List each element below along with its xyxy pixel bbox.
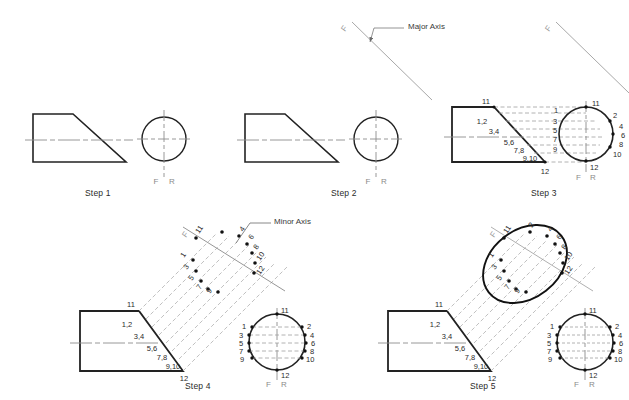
step5-label-7-8: 7,8 [465, 353, 475, 362]
step4-circle-label-10: 10 [306, 355, 314, 364]
step3-circle-label-6: 6 [621, 131, 625, 140]
major-axis-leader [370, 28, 404, 42]
step-4-caption: Step 4 [185, 381, 211, 391]
step4-label-3-4: 3,4 [134, 332, 144, 341]
step4-pt-label-4: 4 [237, 225, 247, 234]
step4-label-5-6: 5,6 [147, 344, 157, 353]
drawing-sheet: F R F R 11 1,2 3,4 5,6 7,8 9,10 12 11 1 … [0, 0, 629, 400]
major-axis-group [352, 22, 629, 100]
step5-circle-label-11: 11 [589, 306, 597, 315]
step4-group [70, 223, 308, 380]
step3-circle-label-4: 4 [619, 122, 623, 131]
step5-ellipse-points [499, 230, 565, 294]
step2-rear-marker: R [381, 177, 387, 186]
step3-label-3-4: 3,4 [489, 127, 499, 136]
step4-plotted-points [191, 230, 257, 294]
step5-circle-label-2: 2 [615, 322, 619, 331]
step1-front-marker: F [154, 177, 159, 186]
step5-label-11: 11 [435, 300, 443, 309]
step4-circle-label-9: 9 [240, 355, 244, 364]
step5-ellipse-label-4: 4 [545, 225, 555, 234]
step4-receding-lines [139, 233, 287, 371]
step4-pt-label-8: 8 [251, 243, 261, 252]
step4-pt-label-1: 1 [178, 251, 188, 260]
step3-circle-label-1: 1 [554, 106, 558, 115]
step5-label-1-2: 1,2 [430, 320, 440, 329]
step5-circle-label-1: 1 [550, 322, 554, 331]
step5-ellipse-label-11: 11 [501, 224, 513, 236]
step4-major-axis [183, 227, 285, 291]
step3-rear-marker: R [590, 173, 596, 182]
step-3-caption: Step 3 [531, 188, 557, 198]
major-axis-fold-marker-left: F [339, 24, 349, 33]
step5-front-marker: F [574, 380, 579, 389]
technical-drawing-svg: F R F R 11 1,2 3,4 5,6 7,8 9,10 12 11 1 … [0, 0, 629, 400]
step4-pt-label-7: 7 [194, 283, 204, 292]
step3-label-11: 11 [482, 97, 490, 106]
step3-label-1-2: 1,2 [477, 117, 487, 126]
step1-rear-marker: R [169, 177, 175, 186]
step-1-caption: Step 1 [85, 188, 111, 198]
step3-circle-label-5: 5 [553, 126, 557, 135]
step4-circle-label-2: 2 [307, 322, 311, 331]
step3-circle-label-8: 8 [619, 140, 623, 149]
step4-label-9-10: 9,10 [166, 362, 181, 371]
step4-circle-chords [249, 327, 306, 358]
step4-label-1-2: 1,2 [122, 320, 132, 329]
step5-circle-points [555, 312, 615, 371]
step5-circle-chords [557, 327, 614, 358]
step-5-caption: Step 5 [470, 381, 496, 391]
step4-label-7-8: 7,8 [157, 353, 167, 362]
step1-group [25, 110, 191, 177]
step3-label-12: 12 [541, 167, 549, 176]
step4-circle-points [247, 312, 307, 371]
minor-axis-label: Minor Axis [274, 217, 311, 226]
major-axis-line-left [352, 22, 432, 100]
step5-ellipse-label-2: 2 [526, 221, 536, 230]
step3-circle-label-9: 9 [553, 145, 557, 154]
step5-fold-marker: F [488, 230, 498, 239]
step4-circle-label-1: 1 [242, 322, 246, 331]
step3-circle-label-11: 11 [592, 99, 600, 108]
major-axis-label: Major Axis [408, 22, 445, 31]
step5-label-9-10: 9,10 [474, 362, 489, 371]
step2-front-marker: F [366, 177, 371, 186]
step1-front-outline [33, 114, 126, 162]
step3-circle-points [584, 105, 614, 162]
step4-pt-label-10: 10 [254, 250, 266, 262]
step3-circle-label-7: 7 [553, 135, 557, 144]
step4-pt-label-5: 5 [186, 274, 196, 283]
step-2-caption: Step 2 [331, 188, 357, 198]
step5-ellipse-label-7: 7 [502, 283, 512, 292]
step2-group [237, 110, 403, 177]
step3-circle-label-10: 10 [613, 150, 621, 159]
step3-circle-label-2: 2 [613, 111, 617, 120]
step5-label-3-4: 3,4 [442, 332, 452, 341]
step4-fold-marker: F [180, 230, 190, 239]
step4-front-marker: F [266, 380, 271, 389]
step4-pt-label-12: 12 [254, 264, 266, 276]
step3-label-5-6: 5,6 [504, 138, 514, 147]
step5-ellipse-label-5: 5 [494, 274, 504, 283]
step5-rear-marker: R [589, 380, 595, 389]
step4-circle-label-12: 12 [281, 371, 289, 380]
step2-front-outline [245, 114, 338, 162]
step3-label-9-10: 9,10 [523, 154, 538, 163]
step4-circle-label-11: 11 [281, 306, 289, 315]
step4-rear-marker: R [281, 380, 287, 389]
major-axis-line-right [556, 22, 629, 93]
step4-pt-label-6: 6 [246, 233, 256, 242]
step5-circle-label-9: 9 [548, 355, 552, 364]
step5-label-5-6: 5,6 [455, 344, 465, 353]
step5-circle-label-12: 12 [589, 371, 597, 380]
step5-circle-label-10: 10 [614, 355, 622, 364]
step3-circle-label-12: 12 [590, 163, 598, 172]
step5-ellipse-label-10: 10 [562, 250, 574, 262]
step3-circle-label-3: 3 [553, 117, 557, 126]
step3-front-marker: F [576, 173, 581, 182]
major-axis-fold-marker-right: F [543, 24, 553, 33]
step4-pt-label-11: 11 [193, 224, 205, 236]
step4-label-11: 11 [127, 300, 135, 309]
